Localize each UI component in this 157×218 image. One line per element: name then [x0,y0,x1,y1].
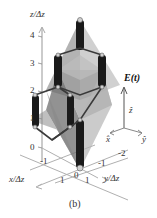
z-tick-4: 4 [30,31,35,40]
y-axis-label: y/Δz [104,174,119,183]
octahedra [30,20,120,170]
figure-caption: (b) [69,198,81,209]
lattice-diagram [0,0,157,218]
z-axis [38,27,45,162]
z-tick-2: 2 [30,86,35,95]
y-tick-1: 1 [85,176,90,185]
x-axis-label: x/Δz [9,175,24,184]
x-tick-neg1: -1 [40,157,48,166]
y-tick-neg2: -2 [118,149,126,158]
z-tick-1: 1 [30,114,35,123]
unit-y-label: ŷ [142,135,146,144]
unit-x-label: x̂ [106,135,110,144]
y-tick-neg1: -1 [98,159,106,168]
field-vector-label: E(t) [124,73,140,82]
z-tick-3: 3 [30,59,35,68]
z-axis-label: z/Δz [30,10,45,19]
unit-z-label: ẑ [129,106,133,115]
z-tick-0: 0 [30,143,35,152]
unit-vector-triad [110,87,142,136]
x-tick-1: 1 [60,176,65,185]
origin-tick: 0 [74,171,79,180]
